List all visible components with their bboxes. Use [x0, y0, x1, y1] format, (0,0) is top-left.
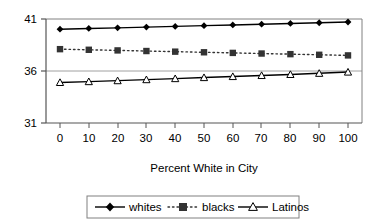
x-tick-label-2: 20 — [112, 132, 125, 144]
data-point-blacks-50 — [201, 49, 207, 55]
x-tick-label-0: 0 — [57, 132, 63, 144]
x-tick-label-1: 10 — [83, 132, 96, 144]
x-axis-title: Percent White in City — [150, 162, 258, 174]
chart-canvas: 41 36 31 0 10 20 30 40 50 60 70 80 90 10… — [0, 0, 384, 223]
data-point-blacks-40 — [172, 48, 178, 54]
x-tick-label-10: 100 — [338, 132, 357, 144]
y-tick-label-1: 36 — [24, 65, 37, 77]
x-tick-label-4: 40 — [169, 132, 182, 144]
data-point-blacks-100 — [345, 52, 351, 58]
y-tick-label-0: 41 — [24, 13, 37, 25]
x-tick-label-3: 30 — [140, 132, 153, 144]
filled-square-icon — [179, 203, 187, 211]
x-tick-label-8: 80 — [284, 132, 297, 144]
legend-label-latinos: Latinos — [272, 201, 309, 213]
line-chart: 41 36 31 0 10 20 30 40 50 60 70 80 90 10… — [0, 0, 384, 223]
x-tick-marks — [60, 123, 348, 128]
legend-label-blacks: blacks — [202, 201, 235, 213]
data-point-blacks-70 — [258, 50, 264, 56]
data-point-blacks-30 — [143, 48, 149, 54]
data-point-blacks-10 — [86, 47, 92, 53]
data-point-blacks-80 — [287, 51, 293, 57]
data-point-blacks-0 — [57, 46, 63, 52]
data-point-blacks-90 — [316, 52, 322, 58]
x-tick-label-7: 70 — [255, 132, 268, 144]
data-point-blacks-20 — [114, 47, 120, 53]
data-point-blacks-60 — [230, 50, 236, 56]
x-tick-label-9: 90 — [313, 132, 326, 144]
legend-label-whites: whites — [128, 201, 162, 213]
x-tick-label-6: 60 — [227, 132, 240, 144]
x-tick-label-5: 50 — [198, 132, 211, 144]
y-tick-label-2: 31 — [24, 117, 37, 129]
